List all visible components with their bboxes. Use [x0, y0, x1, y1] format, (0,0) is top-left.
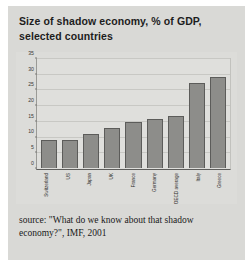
bar-slot	[80, 60, 101, 168]
x-axis-label-slot: France	[123, 172, 145, 202]
x-axis-label-slot: Italy	[188, 172, 210, 202]
y-axis-tick-mark	[35, 168, 37, 169]
x-axis-tick-label: Germany	[153, 173, 158, 192]
x-axis-tick-label: Switzerland	[45, 173, 50, 197]
chart-plot-card: 05101520253035 SwitzerlandUSJapanUKFranc…	[16, 52, 237, 204]
y-axis-tick-label: 10	[28, 130, 34, 135]
y-axis-tick-label: 30	[28, 67, 34, 72]
y-axis-tick-mark	[35, 105, 37, 106]
x-axis-label-slot: UK	[101, 172, 123, 202]
bar-slot	[144, 60, 165, 168]
bar-slot	[38, 60, 59, 168]
x-axis-tick-label: US	[66, 173, 71, 179]
y-axis-tick-mark	[35, 136, 37, 137]
x-axis-label-slot: US	[58, 172, 80, 202]
bar	[104, 128, 120, 168]
bar-slot	[123, 60, 144, 168]
bar	[62, 140, 78, 168]
x-axis-tick-label: OECD average	[175, 173, 180, 204]
y-axis-tick-label: 15	[28, 114, 34, 119]
plot-area-wrapper: 05101520253035	[36, 58, 231, 170]
x-axis-labels: SwitzerlandUSJapanUKFranceGermanyOECD av…	[36, 172, 231, 202]
x-axis-label-slot: Switzerland	[36, 172, 58, 202]
y-axis-tick-mark	[35, 89, 37, 90]
y-axis-tick-label: 0	[31, 161, 34, 166]
chart-figure: Size of shadow economy, % of GDP, select…	[8, 6, 245, 260]
y-axis-tick-label: 20	[28, 98, 34, 103]
x-axis-tick-label: Japan	[88, 173, 93, 186]
bar-slot	[102, 60, 123, 168]
bar-slot	[165, 60, 186, 168]
bar	[189, 83, 205, 168]
x-axis-tick-label: Greece	[218, 173, 223, 188]
y-axis-tick-mark	[35, 152, 37, 153]
bar-slot	[187, 60, 208, 168]
bar	[147, 119, 163, 168]
y-axis-tick-label: 5	[31, 145, 34, 150]
x-axis-tick-label: UK	[110, 173, 115, 179]
x-axis-label-slot: Germany	[144, 172, 166, 202]
bar	[210, 77, 226, 168]
bar	[168, 116, 184, 168]
bar-series	[38, 60, 229, 168]
bar-slot	[208, 60, 229, 168]
chart-title: Size of shadow economy, % of GDP, select…	[19, 14, 234, 44]
y-axis-tick-mark	[35, 120, 37, 121]
y-axis-tick-label: 35	[28, 51, 34, 56]
gridline	[37, 58, 230, 59]
bar	[83, 134, 99, 168]
x-axis-tick-label: France	[131, 173, 136, 187]
y-axis-tick-mark	[35, 58, 37, 59]
plot-area: 05101520253035	[36, 58, 231, 170]
y-axis-tick-mark	[35, 73, 37, 74]
x-axis-label-slot: Japan	[79, 172, 101, 202]
bar	[41, 140, 57, 168]
bar-slot	[59, 60, 80, 168]
bar	[125, 122, 141, 168]
source-note: source: "What do we know about that shad…	[19, 214, 229, 240]
x-axis-label-slot: OECD average	[166, 172, 188, 202]
x-axis-label-slot: Greece	[209, 172, 231, 202]
y-axis-tick-label: 25	[28, 83, 34, 88]
x-axis-tick-label: Italy	[196, 173, 201, 181]
